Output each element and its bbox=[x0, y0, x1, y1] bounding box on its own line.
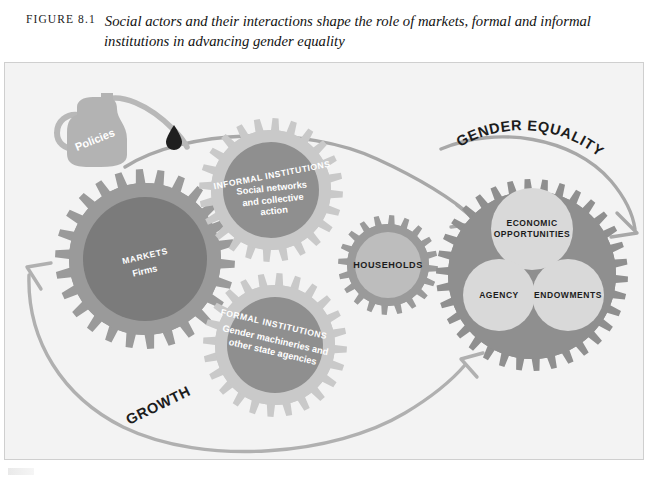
oil-drop-icon bbox=[166, 125, 182, 150]
gear-core-informal-institutions bbox=[223, 142, 319, 238]
diagram-panel: GENDER EQUALITY GROWTH Policies bbox=[4, 62, 644, 460]
gear-core-markets bbox=[83, 197, 207, 321]
gear-informal-institutions bbox=[199, 118, 343, 262]
circle-agency bbox=[463, 259, 535, 331]
gear-core-households bbox=[355, 232, 421, 298]
circle-endowments bbox=[532, 259, 604, 331]
svg-text:GROWTH: GROWTH bbox=[123, 383, 193, 428]
gear-formal-institutions bbox=[203, 273, 347, 417]
figure-heading: FIGURE 8.1 Social actors and their inter… bbox=[26, 12, 626, 51]
diagram-canvas: GENDER EQUALITY GROWTH Policies bbox=[5, 63, 644, 460]
figure-title: Social actors and their interactions sha… bbox=[104, 12, 626, 51]
circle-economic-opportunities bbox=[491, 188, 573, 270]
figure-container: FIGURE 8.1 Social actors and their inter… bbox=[0, 0, 650, 487]
page-artifact bbox=[8, 468, 34, 475]
flow-label-growth: GROWTH bbox=[123, 383, 193, 428]
oil-can bbox=[57, 93, 187, 167]
gear-core-formal-institutions bbox=[227, 297, 323, 393]
figure-number: FIGURE 8.1 bbox=[26, 12, 105, 25]
gear-households bbox=[338, 215, 438, 315]
